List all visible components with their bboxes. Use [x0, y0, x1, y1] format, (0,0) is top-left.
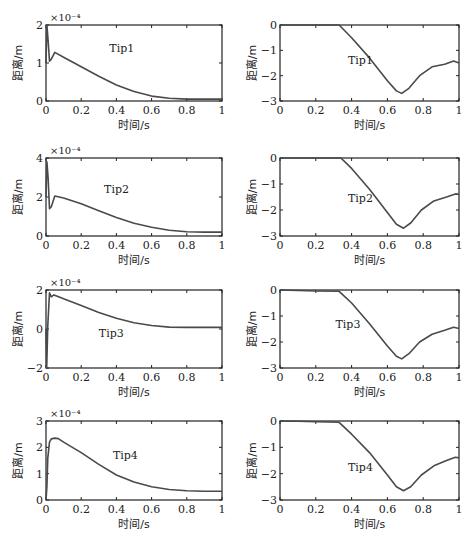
x-tick-label: 0.2	[307, 239, 325, 252]
x-tick-label: 0.8	[178, 104, 196, 117]
y-tick-label: 0	[36, 494, 43, 507]
x-tick-label: 0.2	[307, 371, 325, 384]
x-tick-label: 1	[219, 239, 226, 252]
chart-panel-tip2-left: 00.20.40.60.81024×10⁻⁴时间/s距离/mTip2	[11, 145, 226, 267]
x-tick-label: 1	[456, 239, 463, 252]
x-tick-label: 0.6	[143, 239, 161, 252]
y-tick-label: 2	[36, 191, 43, 204]
x-tick-label: 0	[277, 239, 284, 252]
y-tick-label: 0	[270, 415, 277, 428]
x-axis-label: 时间/s	[354, 119, 386, 132]
chart-panel-tip4-right: 00.20.40.60.810−1−2−3时间/s距离/mTip4	[245, 415, 463, 531]
x-tick-label: 0.8	[414, 104, 432, 117]
y-tick-label: −1	[261, 44, 277, 57]
y-tick-label: 0	[36, 323, 43, 336]
y-exponent-label: ×10⁻⁴	[50, 12, 80, 23]
y-tick-label: −1	[261, 178, 277, 191]
x-axis-label: 时间/s	[118, 119, 150, 132]
chart-panel-tip3-right: 00.20.40.60.810−1−2−3时间/s距离/mTip3	[245, 284, 463, 399]
x-tick-label: 1	[219, 104, 226, 117]
x-tick-label: 0.8	[178, 239, 196, 252]
y-axis-label: 距离/m	[11, 311, 25, 347]
y-tick-label: 0	[36, 95, 43, 108]
x-tick-label: 1	[219, 503, 226, 516]
y-axis-label: 距离/m	[11, 45, 25, 81]
x-tick-label: 0	[277, 503, 284, 516]
x-tick-label: 0.8	[414, 503, 432, 516]
data-line	[46, 293, 222, 368]
y-tick-label: −2	[261, 204, 277, 217]
y-tick-label: 2	[36, 19, 43, 32]
data-line	[280, 421, 459, 491]
y-tick-label: −3	[261, 494, 277, 507]
data-line	[46, 162, 222, 232]
x-tick-label: 1	[456, 371, 463, 384]
tip-annotation: Tip4	[113, 449, 138, 462]
x-tick-label: 0.4	[343, 503, 361, 516]
y-tick-label: −2	[261, 70, 277, 83]
x-tick-label: 0.2	[72, 503, 90, 516]
chart-panel-tip4-left: 00.20.40.60.810123×10⁻⁴时间/s距离/mTip4	[11, 408, 226, 531]
y-tick-label: 4	[36, 152, 43, 165]
x-tick-label: 0	[43, 371, 50, 384]
y-tick-label: 0	[270, 19, 277, 32]
y-tick-label: 2	[36, 284, 43, 297]
x-tick-label: 0.4	[108, 239, 126, 252]
x-tick-label: 0.4	[343, 239, 361, 252]
y-tick-label: −3	[261, 362, 277, 375]
x-axis-label: 时间/s	[354, 254, 386, 267]
x-axis-label: 时间/s	[354, 386, 386, 399]
chart-panel-tip2-right: 00.20.40.60.810−1−2−3时间/s距离/mTip2	[245, 152, 463, 267]
x-tick-label: 0.2	[72, 371, 90, 384]
y-exponent-label: ×10⁻⁴	[50, 145, 80, 156]
data-line	[46, 25, 222, 99]
y-tick-label: 0	[36, 230, 43, 243]
tip-annotation: Tip1	[109, 42, 134, 55]
y-tick-label: −2	[261, 468, 277, 481]
x-tick-label: 0.8	[178, 503, 196, 516]
tip-annotation: Tip3	[335, 318, 360, 331]
y-exponent-label: ×10⁻⁴	[50, 277, 80, 288]
y-tick-label: 0	[270, 152, 277, 165]
y-axis-label: 距离/m	[11, 179, 25, 215]
y-tick-label: 3	[36, 415, 43, 428]
y-tick-label: 0	[270, 284, 277, 297]
tip-annotation: Tip2	[104, 183, 129, 196]
x-tick-label: 0.6	[143, 104, 161, 117]
x-tick-label: 0.2	[307, 503, 325, 516]
x-tick-label: 0.8	[414, 239, 432, 252]
x-tick-label: 1	[219, 371, 226, 384]
chart-panel-tip1-left: 00.20.40.60.81012×10⁻⁴时间/s距离/mTip1	[11, 12, 226, 132]
x-tick-label: 0.4	[108, 503, 126, 516]
y-tick-label: 1	[36, 468, 43, 481]
x-tick-label: 0.6	[379, 503, 397, 516]
x-tick-label: 1	[456, 104, 463, 117]
x-tick-label: 0.4	[343, 371, 361, 384]
x-tick-label: 0.8	[414, 371, 432, 384]
tip-annotation: Tip4	[348, 461, 373, 474]
y-tick-label: 2	[36, 441, 43, 454]
y-tick-label: −2	[261, 336, 277, 349]
data-line	[280, 290, 459, 359]
x-tick-label: 0.6	[379, 371, 397, 384]
y-axis-label: 距离/m	[11, 442, 25, 478]
x-tick-label: 0	[277, 371, 284, 384]
x-tick-label: 0.4	[108, 371, 126, 384]
plot-frame	[280, 290, 459, 368]
x-tick-label: 0.2	[72, 239, 90, 252]
x-tick-label: 0.8	[178, 371, 196, 384]
x-tick-label: 0	[277, 104, 284, 117]
x-axis-label: 时间/s	[118, 386, 150, 399]
y-axis-label: 距离/m	[245, 442, 259, 478]
y-tick-label: −1	[261, 310, 277, 323]
x-axis-label: 时间/s	[118, 254, 150, 267]
chart-grid: 00.20.40.60.81012×10⁻⁴时间/s距离/mTip100.20.…	[0, 0, 474, 540]
x-tick-label: 0.2	[307, 104, 325, 117]
x-tick-label: 0.6	[143, 503, 161, 516]
y-axis-label: 距离/m	[245, 179, 259, 215]
chart-panel-tip3-left: 00.20.40.60.81−202×10⁻⁴时间/s距离/mTip3	[11, 277, 226, 399]
x-tick-label: 0.6	[379, 239, 397, 252]
x-tick-label: 0.4	[108, 104, 126, 117]
data-line	[46, 438, 222, 500]
y-tick-label: 1	[36, 57, 43, 70]
